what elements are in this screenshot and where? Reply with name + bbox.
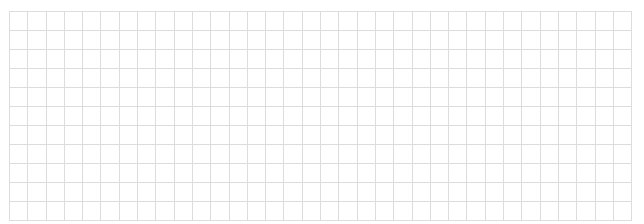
grid-cell[interactable] xyxy=(229,183,247,202)
grid-cell[interactable] xyxy=(577,183,595,202)
grid-cell[interactable] xyxy=(83,31,101,50)
grid-cell[interactable] xyxy=(156,164,174,183)
grid-cell[interactable] xyxy=(412,12,430,31)
grid-cell[interactable] xyxy=(101,88,119,107)
grid-cell[interactable] xyxy=(101,50,119,69)
grid-cell[interactable] xyxy=(138,107,156,126)
grid-cell[interactable] xyxy=(613,145,631,164)
grid-cell[interactable] xyxy=(467,69,485,88)
grid-cell[interactable] xyxy=(339,126,357,145)
grid-cell[interactable] xyxy=(83,50,101,69)
grid-cell[interactable] xyxy=(211,164,229,183)
grid-cell[interactable] xyxy=(467,164,485,183)
grid-cell[interactable] xyxy=(394,31,412,50)
grid-cell[interactable] xyxy=(375,50,393,69)
grid-cell[interactable] xyxy=(101,202,119,221)
grid-cell[interactable] xyxy=(64,31,82,50)
grid-cell[interactable] xyxy=(595,202,613,221)
grid-cell[interactable] xyxy=(485,107,503,126)
grid-cell[interactable] xyxy=(522,145,540,164)
grid-cell[interactable] xyxy=(339,50,357,69)
grid-cell[interactable] xyxy=(28,164,46,183)
grid-cell[interactable] xyxy=(595,12,613,31)
grid-cell[interactable] xyxy=(192,107,210,126)
grid-cell[interactable] xyxy=(302,12,320,31)
grid-cell[interactable] xyxy=(266,50,284,69)
grid-cell[interactable] xyxy=(375,12,393,31)
grid-cell[interactable] xyxy=(211,69,229,88)
grid-cell[interactable] xyxy=(10,164,28,183)
grid-cell[interactable] xyxy=(540,12,558,31)
grid-cell[interactable] xyxy=(192,145,210,164)
grid-cell[interactable] xyxy=(119,69,137,88)
grid-cell[interactable] xyxy=(64,126,82,145)
grid-cell[interactable] xyxy=(266,88,284,107)
grid-cell[interactable] xyxy=(138,12,156,31)
grid-cell[interactable] xyxy=(101,107,119,126)
grid-cell[interactable] xyxy=(302,183,320,202)
grid-cell[interactable] xyxy=(302,69,320,88)
grid-cell[interactable] xyxy=(357,12,375,31)
grid-cell[interactable] xyxy=(284,126,302,145)
grid-cell[interactable] xyxy=(595,183,613,202)
grid-cell[interactable] xyxy=(284,69,302,88)
grid-cell[interactable] xyxy=(302,31,320,50)
grid-cell[interactable] xyxy=(64,107,82,126)
grid-cell[interactable] xyxy=(119,164,137,183)
grid-cell[interactable] xyxy=(138,69,156,88)
grid-cell[interactable] xyxy=(101,31,119,50)
grid-cell[interactable] xyxy=(504,31,522,50)
grid-cell[interactable] xyxy=(504,69,522,88)
grid-cell[interactable] xyxy=(321,31,339,50)
grid-cell[interactable] xyxy=(339,31,357,50)
grid-cell[interactable] xyxy=(412,126,430,145)
grid-cell[interactable] xyxy=(412,145,430,164)
grid-cell[interactable] xyxy=(558,69,576,88)
grid-cell[interactable] xyxy=(522,88,540,107)
grid-cell[interactable] xyxy=(266,145,284,164)
grid-cell[interactable] xyxy=(394,183,412,202)
grid-cell[interactable] xyxy=(558,88,576,107)
grid-cell[interactable] xyxy=(412,107,430,126)
grid-cell[interactable] xyxy=(174,202,192,221)
grid-cell[interactable] xyxy=(321,88,339,107)
grid-cell[interactable] xyxy=(64,145,82,164)
grid-cell[interactable] xyxy=(284,88,302,107)
grid-cell[interactable] xyxy=(412,69,430,88)
grid-cell[interactable] xyxy=(412,31,430,50)
grid-cell[interactable] xyxy=(229,31,247,50)
grid-cell[interactable] xyxy=(394,107,412,126)
grid-cell[interactable] xyxy=(64,88,82,107)
grid-cell[interactable] xyxy=(339,145,357,164)
grid-cell[interactable] xyxy=(302,107,320,126)
grid-cell[interactable] xyxy=(229,107,247,126)
grid-cell[interactable] xyxy=(247,107,265,126)
grid-cell[interactable] xyxy=(138,50,156,69)
grid-cell[interactable] xyxy=(430,107,448,126)
grid-cell[interactable] xyxy=(10,31,28,50)
grid-cell[interactable] xyxy=(229,164,247,183)
grid-cell[interactable] xyxy=(156,145,174,164)
grid-cell[interactable] xyxy=(174,69,192,88)
grid-cell[interactable] xyxy=(485,145,503,164)
grid-cell[interactable] xyxy=(485,69,503,88)
grid-cell[interactable] xyxy=(229,145,247,164)
grid-cell[interactable] xyxy=(522,107,540,126)
grid-cell[interactable] xyxy=(375,107,393,126)
grid-cell[interactable] xyxy=(357,88,375,107)
grid-cell[interactable] xyxy=(247,69,265,88)
grid-cell[interactable] xyxy=(10,202,28,221)
grid-cell[interactable] xyxy=(119,31,137,50)
grid-cell[interactable] xyxy=(613,164,631,183)
grid-cell[interactable] xyxy=(302,88,320,107)
grid-cell[interactable] xyxy=(156,50,174,69)
grid-cell[interactable] xyxy=(10,107,28,126)
grid-cell[interactable] xyxy=(540,126,558,145)
grid-cell[interactable] xyxy=(375,145,393,164)
grid-cell[interactable] xyxy=(412,164,430,183)
grid-cell[interactable] xyxy=(540,69,558,88)
grid-cell[interactable] xyxy=(595,69,613,88)
grid-cell[interactable] xyxy=(192,69,210,88)
grid-cell[interactable] xyxy=(485,31,503,50)
grid-cell[interactable] xyxy=(192,12,210,31)
